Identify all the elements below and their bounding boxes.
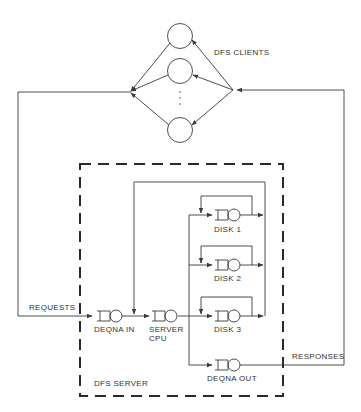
disk-3-self-loop bbox=[201, 297, 252, 316]
disk-3-label: DISK 3 bbox=[214, 325, 241, 334]
clients-label: DFS CLIENTS bbox=[214, 48, 269, 57]
client-out-edge-n bbox=[131, 93, 169, 125]
queue-deqna-out bbox=[215, 359, 240, 371]
disk-2-self-loop bbox=[201, 246, 252, 265]
client-in-edge-n bbox=[192, 90, 233, 125]
disk-return-path bbox=[134, 182, 265, 316]
requests-path bbox=[18, 92, 131, 316]
requests-label: REQUESTS bbox=[29, 303, 75, 312]
client-node-2 bbox=[168, 59, 193, 84]
deqna-in-label: DEQNA IN bbox=[94, 325, 135, 334]
disk-1-self-loop bbox=[201, 196, 252, 215]
responses-label: RESPONSES bbox=[292, 352, 345, 361]
queueing-network-diagram bbox=[0, 0, 361, 412]
queue-disk-3 bbox=[215, 310, 240, 322]
responses-path bbox=[237, 90, 344, 365]
queue-disk-2 bbox=[215, 259, 240, 271]
server-boundary bbox=[80, 164, 283, 396]
client-node-1 bbox=[168, 24, 193, 49]
client-out-edge-1 bbox=[131, 43, 170, 91]
server-cpu-label-line1: SERVER bbox=[149, 325, 184, 334]
disk-1-label: DISK 1 bbox=[214, 225, 241, 234]
client-node-n bbox=[168, 118, 193, 143]
queue-deqna-in bbox=[97, 310, 122, 322]
queue-server-cpu bbox=[152, 310, 177, 322]
server-label: DFS SERVER bbox=[94, 379, 148, 388]
queue-disk-1 bbox=[215, 209, 240, 221]
client-out-edge-2 bbox=[131, 75, 168, 91]
server-cpu-label-line2: CPU bbox=[149, 334, 167, 343]
clients-ellipsis bbox=[179, 91, 181, 105]
disk-2-label: DISK 2 bbox=[214, 274, 241, 283]
deqna-out-label: DEQNA OUT bbox=[207, 374, 257, 383]
